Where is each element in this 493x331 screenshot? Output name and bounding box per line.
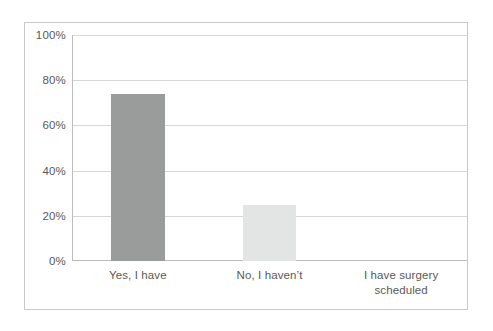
y-tick-label-100pct: 100% xyxy=(36,29,66,41)
y-tick-label-80pct: 80% xyxy=(42,74,66,86)
chart-frame: 0%20%40%60%80%100% Yes, I haveNo, I have… xyxy=(24,22,468,310)
category-label-line: I have surgery xyxy=(335,268,467,283)
plot-area: 0%20%40%60%80%100% xyxy=(72,35,467,261)
bar-1[interactable] xyxy=(243,205,297,262)
category-label-line: scheduled xyxy=(335,283,467,298)
y-tick-label-20pct: 20% xyxy=(42,210,66,222)
gridline-100pct xyxy=(72,35,467,36)
gridline-80pct xyxy=(72,80,467,81)
y-tick-label-60pct: 60% xyxy=(42,119,66,131)
category-label-0: Yes, I have xyxy=(72,266,204,310)
category-label-line: Yes, I have xyxy=(72,268,204,283)
bar-chart-figure: 0%20%40%60%80%100% Yes, I haveNo, I have… xyxy=(0,0,493,331)
value-axis-line xyxy=(72,35,73,261)
category-label-line: No, I haven’t xyxy=(204,268,336,283)
category-label-1: No, I haven’t xyxy=(204,266,336,310)
category-label-2: I have surgeryscheduled xyxy=(335,266,467,310)
y-tick-label-0pct: 0% xyxy=(49,255,66,267)
bar-0[interactable] xyxy=(111,94,165,261)
y-tick-label-40pct: 40% xyxy=(42,165,66,177)
x-axis-category-labels: Yes, I haveNo, I haven’tI have surgerysc… xyxy=(72,266,467,310)
